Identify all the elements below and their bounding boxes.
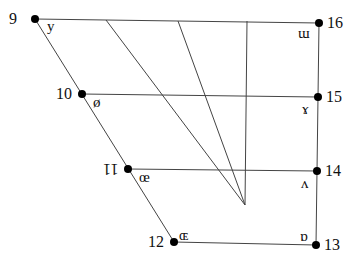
- number-14: 14: [325, 163, 341, 179]
- converging-line-2: [178, 21, 245, 205]
- point-14: [313, 167, 321, 175]
- close-line: [35, 19, 319, 23]
- vowel-symbol-oe: œ: [139, 170, 150, 185]
- vowel-symbol-rams-horn: ɤ: [302, 102, 309, 117]
- front-edge: [35, 19, 174, 242]
- open-line: [174, 242, 316, 245]
- vowel-symbol-small-cap-oe: ɶ: [179, 228, 188, 243]
- number-12: 12: [148, 234, 164, 250]
- number-15: 15: [326, 89, 342, 105]
- number-10: 10: [56, 86, 72, 102]
- point-16: [315, 19, 323, 27]
- number-16: 16: [327, 15, 343, 31]
- converging-line-1: [106, 20, 245, 205]
- vowel-symbol-turned-script-a: ɒ: [300, 229, 308, 244]
- vowel-symbol-y: y: [47, 19, 55, 34]
- point-10: [78, 90, 86, 98]
- open-mid-line: [128, 169, 317, 171]
- converging-line-3: [245, 21, 247, 205]
- point-15: [314, 93, 322, 101]
- point-12: [170, 238, 178, 246]
- vowel-symbol-turned-v: ʌ: [301, 176, 309, 191]
- number-9: 9: [9, 11, 17, 27]
- close-mid-line: [82, 94, 318, 97]
- number-11: 11: [103, 161, 118, 177]
- back-edge: [316, 23, 319, 245]
- number-13: 13: [324, 237, 340, 253]
- point-11: [124, 165, 132, 173]
- vowel-symbol-o-slash: ø: [93, 95, 101, 110]
- point-13: [312, 241, 320, 249]
- point-9: [31, 15, 39, 23]
- vowel-symbol-turned-m: ɯ: [298, 26, 310, 41]
